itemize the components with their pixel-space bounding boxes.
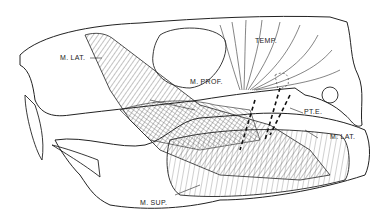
auditory-meatus <box>322 87 338 103</box>
upper-incisor <box>25 95 43 160</box>
label-m-lat-lower: M. LAT. <box>330 133 355 140</box>
label-m-lat-upper: M. LAT. <box>60 54 85 61</box>
label-m-prof: M. PROF. <box>190 78 223 85</box>
skull-muscle-diagram <box>0 0 384 218</box>
temporalis-muscle <box>220 20 340 90</box>
lower-incisor <box>52 145 100 177</box>
label-m-sup: M. SUP. <box>140 199 167 206</box>
label-pte: PT.E. <box>304 108 322 115</box>
label-temp: TEMP. <box>255 37 277 44</box>
